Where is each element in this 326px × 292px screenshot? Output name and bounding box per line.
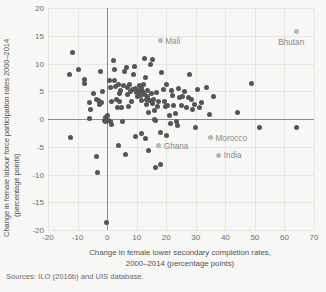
- x-axis-tick-label: -10: [72, 233, 84, 242]
- data-point-label: Bhutan: [278, 38, 304, 47]
- data-point: [294, 125, 299, 130]
- data-point: [150, 57, 155, 62]
- y-axis-tick-label: 20: [35, 4, 44, 13]
- data-point-label: Ghana: [164, 142, 189, 151]
- data-point: [146, 110, 151, 115]
- data-point: [161, 87, 166, 92]
- data-point: [94, 154, 99, 159]
- data-point: [165, 103, 170, 108]
- data-point: [164, 82, 169, 87]
- data-point: [179, 103, 184, 108]
- data-point: [175, 123, 180, 128]
- data-point: [87, 116, 92, 121]
- x-axis-tick-label: 10: [132, 233, 141, 242]
- data-point: [158, 162, 163, 167]
- data-point: [139, 131, 144, 136]
- x-axis-tick-label: 20: [162, 233, 171, 242]
- data-point: [168, 121, 173, 126]
- data-point: [68, 135, 73, 140]
- y-axis-title-line1: Change in female labour force participat…: [2, 39, 11, 237]
- data-point: [70, 50, 75, 55]
- gridline-vertical: [314, 8, 315, 230]
- data-point: [98, 69, 103, 74]
- source-note: Sources: ILO (2016b) and UIS database.: [6, 272, 144, 281]
- data-point: [197, 105, 202, 110]
- data-point: [199, 100, 204, 105]
- data-point: [76, 67, 81, 72]
- data-point: [173, 111, 178, 116]
- data-point: [124, 65, 129, 70]
- data-point: [159, 70, 164, 75]
- data-point-highlighted: [216, 153, 221, 158]
- data-point-highlighted: [208, 135, 213, 140]
- x-axis-tick-label: 30: [191, 233, 200, 242]
- gridline-horizontal: [48, 230, 314, 231]
- data-point: [143, 136, 148, 141]
- data-point: [156, 99, 161, 104]
- data-point: [131, 72, 136, 77]
- y-axis-tick-label: 0: [40, 115, 44, 124]
- data-point: [143, 75, 148, 80]
- data-point: [164, 133, 169, 138]
- data-point: [195, 87, 200, 92]
- data-point: [116, 143, 121, 148]
- gridline-horizontal: [48, 175, 314, 176]
- data-point-label: India: [224, 151, 242, 160]
- data-point: [158, 130, 163, 135]
- scatter-chart-figure: Change in female labour force participat…: [0, 0, 326, 292]
- data-point: [88, 107, 93, 112]
- data-point: [182, 89, 187, 94]
- x-axis-title-line1: Change in female lower secondary complet…: [40, 248, 320, 259]
- data-point: [129, 99, 134, 104]
- data-point: [176, 86, 181, 91]
- data-point: [184, 105, 189, 110]
- data-point-label: Morocco: [216, 134, 247, 143]
- data-point: [118, 88, 123, 93]
- y-axis-tick-label: 5: [40, 87, 44, 96]
- data-point: [190, 107, 195, 112]
- data-point: [170, 93, 175, 98]
- data-point: [120, 119, 125, 124]
- data-point: [99, 100, 104, 105]
- y-axis-tick-label: -5: [37, 142, 44, 151]
- x-axis-title: Change in female lower secondary complet…: [40, 248, 320, 269]
- gridline-horizontal: [48, 8, 314, 9]
- data-point-highlighted: [158, 38, 163, 43]
- data-point: [249, 81, 254, 86]
- data-point: [235, 110, 240, 115]
- data-point: [112, 67, 117, 72]
- data-point: [187, 72, 192, 77]
- data-point: [67, 72, 72, 77]
- plot-area: 20151050-5-10-15-20-20-10010203040506070…: [48, 8, 314, 230]
- data-point: [169, 88, 174, 93]
- gridline-horizontal: [48, 36, 314, 37]
- gridline-horizontal: [48, 64, 314, 65]
- y-axis-title-line2: (percentage points): [12, 153, 21, 217]
- x-axis-tick-label: 60: [280, 233, 289, 242]
- data-point: [119, 105, 124, 110]
- data-point: [257, 125, 262, 130]
- data-point: [123, 152, 128, 157]
- y-axis-tick-label: 15: [35, 31, 44, 40]
- data-point: [108, 85, 113, 90]
- gridline-horizontal: [48, 91, 314, 92]
- data-point: [167, 113, 172, 118]
- data-point: [211, 94, 216, 99]
- data-point: [180, 94, 185, 99]
- data-point: [87, 100, 92, 105]
- data-point: [111, 58, 116, 63]
- data-point: [193, 125, 198, 130]
- data-point: [148, 62, 153, 67]
- data-point: [154, 90, 159, 95]
- data-point: [91, 91, 96, 96]
- data-point: [100, 89, 105, 94]
- x-axis-tick-label: 40: [221, 233, 230, 242]
- data-point: [146, 148, 151, 153]
- data-point: [107, 78, 112, 83]
- gridline-horizontal: [48, 202, 314, 203]
- data-point: [149, 91, 154, 96]
- data-point: [142, 56, 147, 61]
- y-axis-tick-label: -15: [32, 198, 44, 207]
- data-point: [141, 82, 146, 87]
- data-point-label: Mali: [165, 37, 180, 46]
